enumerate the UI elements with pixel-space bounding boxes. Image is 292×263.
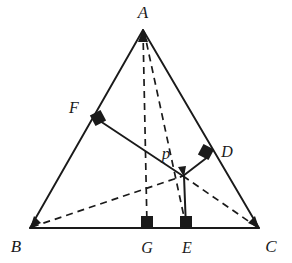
label-D: D — [220, 143, 233, 160]
right-angle-at-G — [141, 216, 153, 227]
segment-PD — [183, 156, 209, 176]
side-AC — [143, 30, 259, 228]
geometry-diagram-canvas: A B C D E F G p — [0, 0, 292, 263]
perpendicular-segments-group — [97, 119, 209, 228]
label-P: p — [161, 144, 171, 163]
label-A: A — [137, 3, 149, 22]
dashed-segments-group — [32, 31, 257, 227]
label-E: E — [181, 239, 192, 256]
right-angle-at-E — [180, 216, 192, 227]
cevian-PC — [183, 176, 257, 227]
geometry-figure: A B C D E F G p — [0, 0, 292, 263]
label-G: G — [141, 239, 153, 256]
cevian-AP-extended — [144, 31, 186, 226]
label-F: F — [68, 99, 79, 116]
arrowhead-at-C — [248, 216, 259, 228]
cevian-AG — [143, 31, 147, 226]
label-C: C — [265, 237, 277, 256]
label-B: B — [11, 237, 22, 256]
side-AB — [30, 30, 143, 228]
